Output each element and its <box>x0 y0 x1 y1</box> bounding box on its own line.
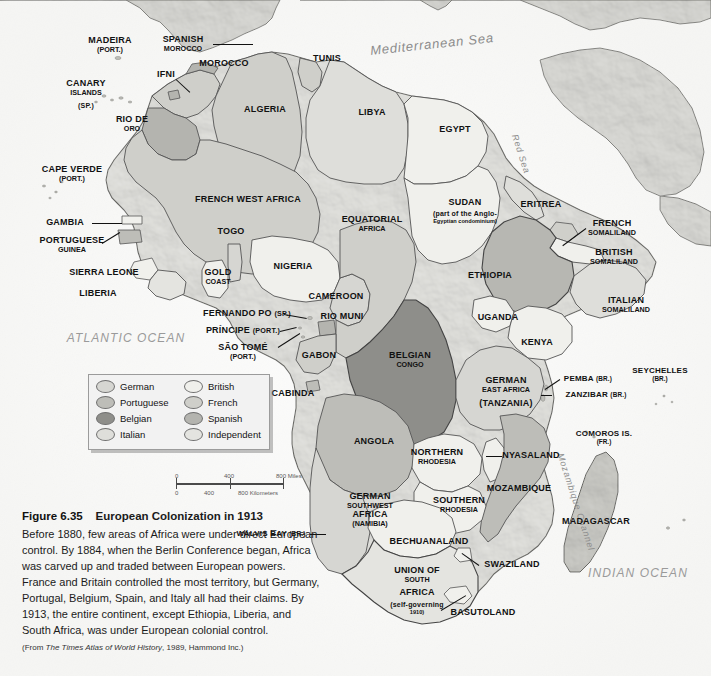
map-label-cabinda: CABINDA <box>272 389 315 399</box>
label-main: BELGIAN <box>389 350 431 360</box>
map-label-nyasaland: NYASALAND <box>502 451 559 461</box>
map-label-portuguese: PORTUGUESEGUINEA <box>39 236 104 253</box>
label-sub: (PORT.) <box>42 175 103 183</box>
scale-tick <box>283 483 284 489</box>
map-label-kenya: KENYA <box>521 338 553 348</box>
caption-source: (From The Times Atlas of World History, … <box>22 643 322 652</box>
label-main: LIBERIA <box>79 288 116 298</box>
legend-label-belgian: Belgian <box>120 413 152 424</box>
map-label-africa: AFRICA(NAMIBIA) <box>352 510 388 527</box>
map-label-union-of: UNION OFSOUTH <box>394 566 440 583</box>
label-main: GERMAN <box>485 375 526 385</box>
label-main: KENYA <box>521 337 553 347</box>
map-label-gabon: GABON <box>302 351 337 361</box>
legend-item-portuguese: Portuguese <box>96 396 184 409</box>
source-prefix: (From <box>22 643 46 652</box>
map-label-angola: ANGOLA <box>354 437 394 447</box>
map-label-sierra-leone: SIERRA LEONE <box>69 268 139 278</box>
label-paren: (BR.) <box>596 375 612 382</box>
label-main: UGANDA <box>478 312 519 322</box>
legend-swatch-italian <box>96 428 115 441</box>
legend-column-right: BritishFrenchSpanishIndependent <box>184 380 261 449</box>
map-label-bechuanaland: BECHUANALAND <box>390 537 469 547</box>
scale-miles-400: 400 <box>224 473 234 479</box>
legend-item-french: French <box>184 396 261 409</box>
legend-swatch-french <box>184 396 203 409</box>
map-label-togo: TOGO <box>217 227 244 237</box>
map-label-pemba: PEMBA (BR.) <box>564 375 612 384</box>
label-main: LIBYA <box>358 107 385 117</box>
legend-swatch-spanish <box>184 412 203 425</box>
legend-label-independent: Independent <box>208 429 261 440</box>
map-label-ethiopia: ETHIOPIA <box>468 271 512 281</box>
label-sub: Egyptian condominium) <box>433 218 497 224</box>
legend-item-belgian: Belgian <box>96 412 184 425</box>
label-main: ZANZIBAR <box>565 390 607 399</box>
label-sub: (NAMIBIA) <box>352 520 388 528</box>
map-label-equatorial: EQUATORIALAFRICA <box>342 215 403 232</box>
map-label-northern: NORTHERNRHODESIA <box>411 448 464 465</box>
label-main: FRENCH <box>593 218 632 228</box>
label-main: RIO DE <box>116 114 148 124</box>
label-sub: ORO <box>116 125 148 133</box>
label-main: FRENCH WEST AFRICA <box>195 194 301 204</box>
map-label-part-of-the-anglo: (part of the Anglo-Egyptian condominium) <box>433 210 497 224</box>
label-paren: (BR.) <box>610 391 626 398</box>
label-main: MADEIRA <box>88 35 131 45</box>
label-main: AFRICA <box>352 509 387 519</box>
label-main: ITALIAN <box>608 295 644 305</box>
label-main: ALGERIA <box>244 104 286 114</box>
legend-label-portuguese: Portuguese <box>120 397 169 408</box>
figure-page: ATLANTIC OCEANINDIAN OCEANMediterranean … <box>0 0 711 676</box>
map-label-rio-de: RIO DEORO <box>116 115 148 132</box>
label-main: ERITREA <box>521 199 562 209</box>
label-sub: ISLANDS <box>66 89 105 97</box>
label-main: BASUTOLAND <box>451 607 516 617</box>
scale-km-800: 800 Kilometers <box>238 490 278 496</box>
label-leader-line <box>541 395 552 396</box>
label-main: EGYPT <box>439 124 471 134</box>
label-main: SEYCHELLES <box>632 366 687 375</box>
map-label-cameroon: CAMEROON <box>308 292 363 302</box>
label-main: (SP.) <box>78 102 94 109</box>
label-main: GERMAN <box>349 491 390 501</box>
scale-km-400: 400 <box>204 490 214 496</box>
legend-item-italian: Italian <box>96 428 184 441</box>
source-suffix: , 1989, Hammond Inc.) <box>162 643 243 652</box>
label-main: FERNANDO PO <box>203 308 272 318</box>
map-label-french: FRENCHSOMALILAND <box>588 219 636 236</box>
label-paren: (SP.) <box>274 309 290 318</box>
legend-item-british: British <box>184 380 261 393</box>
legend-label-italian: Italian <box>120 429 145 440</box>
legend-label-spanish: Spanish <box>208 413 242 424</box>
scale-km-0: 0 <box>175 490 178 496</box>
label-sub: COAST <box>205 278 232 286</box>
map-label-libya: LIBYA <box>358 108 385 118</box>
label-main: PEMBA <box>564 374 594 383</box>
label-sub: SOUTH <box>394 576 440 584</box>
ocean-label-atlantic-ocean: ATLANTIC OCEAN <box>67 331 186 345</box>
label-main: (TANZANIA) <box>479 398 532 408</box>
label-main: NYASALAND <box>502 450 559 460</box>
map-label-eritrea: ERITREA <box>521 200 562 210</box>
legend-item-independent: Independent <box>184 428 261 441</box>
scale-tick <box>176 483 177 489</box>
label-sub: RHODESIA <box>433 506 485 514</box>
map-label-madagascar: MADAGASCAR <box>562 517 630 527</box>
label-main: BRITISH <box>595 247 632 257</box>
label-main: SIERRA LEONE <box>69 267 139 277</box>
map-label-sudan: SUDAN <box>448 198 481 208</box>
map-label-german: GERMANSOUTHWEST <box>347 492 393 509</box>
label-main: ETHIOPIA <box>468 270 512 280</box>
map-label-italian: ITALIANSOMALILAND <box>602 296 650 313</box>
label-main: (part of the Anglo- <box>433 210 497 217</box>
map-label-british: BRITISHSOMALILAND <box>590 248 638 265</box>
label-main: CANARY <box>66 78 105 88</box>
label-leader-line <box>486 456 502 457</box>
map-label-sp: (SP.) <box>78 102 94 110</box>
legend-column-left: GermanPortugueseBelgianItalian <box>96 380 184 449</box>
label-main: IFNI <box>157 69 175 79</box>
map-label-rio-muni: RIO MUNI <box>320 312 363 322</box>
label-leader-line <box>213 44 253 45</box>
label-main: SPANISH <box>163 34 204 44</box>
